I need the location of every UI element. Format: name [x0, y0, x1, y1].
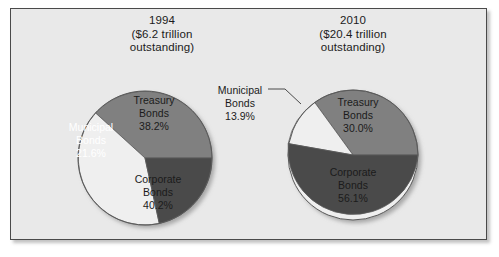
label-1994-treasury: Treasury Bonds 38.2%	[116, 94, 192, 133]
label-2010-municipal: Municipal Bonds 13.9%	[205, 84, 275, 123]
figure-container: 1994 ($6.2 trillion outstanding) 2010 ($…	[0, 0, 499, 257]
label-2010-corporate: Corporate Bonds 56.1%	[312, 166, 394, 205]
label-1994-corporate: Corporate Bonds 40.2%	[119, 173, 197, 212]
label-1994-municipal: Municipal Bonds 21.6%	[58, 121, 124, 160]
label-2010-treasury: Treasury Bonds 30.0%	[320, 96, 396, 135]
